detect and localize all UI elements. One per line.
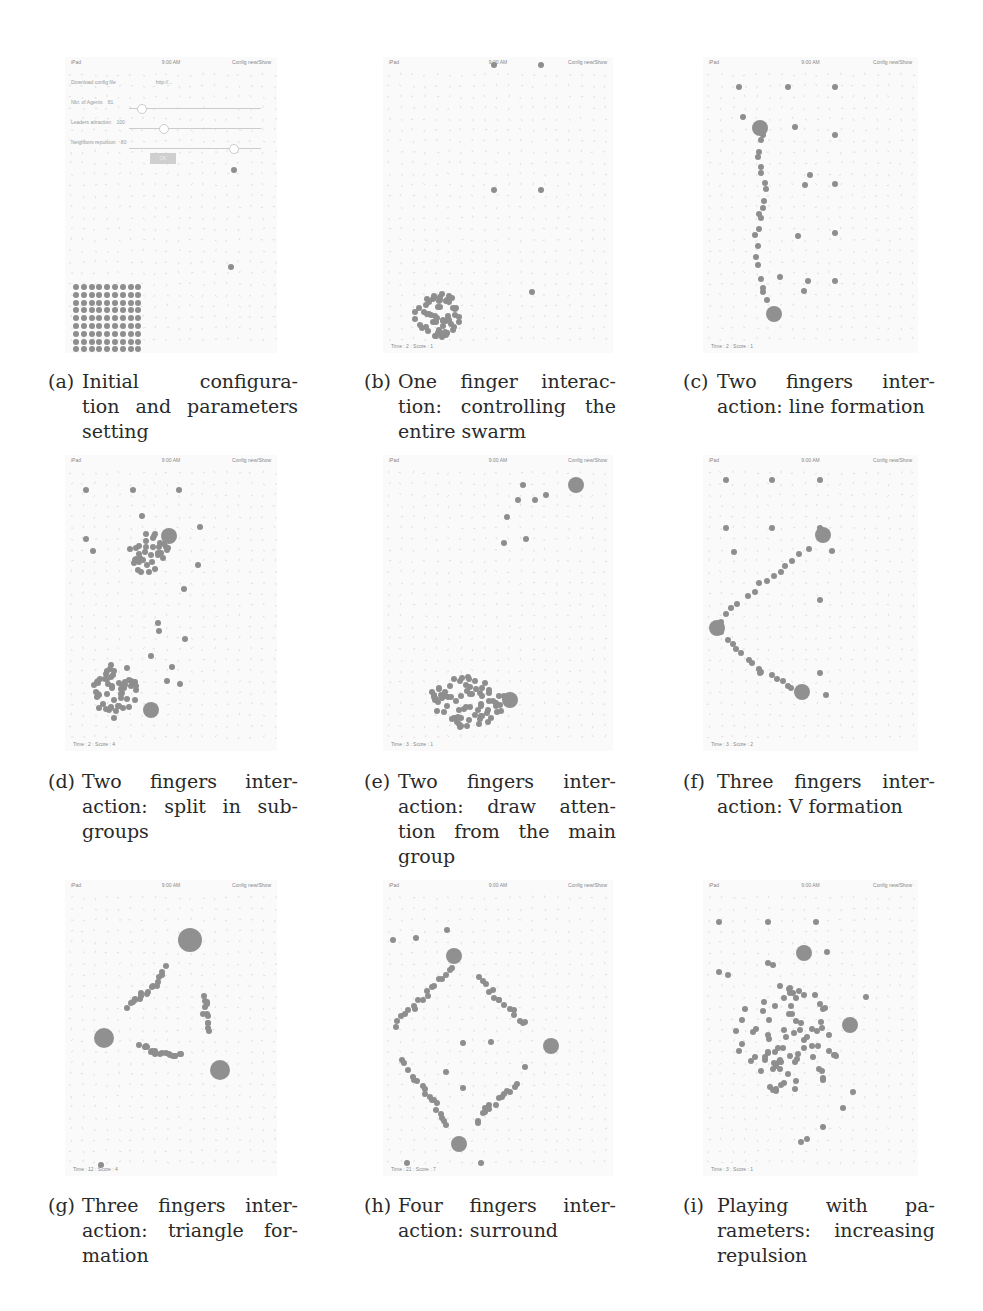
swarm-agent — [801, 992, 807, 998]
settings-slider[interactable] — [129, 108, 261, 109]
caption-e: (e)Two fingers inter-action: draw atten-… — [364, 769, 616, 869]
swarm-agent — [466, 717, 472, 723]
swarm-agent — [773, 1088, 779, 1094]
settings-value[interactable]: 80 — [119, 139, 126, 145]
config-button[interactable]: Config new/Show — [873, 457, 912, 463]
swarm-agent — [805, 278, 811, 284]
swarm-agent — [488, 715, 494, 721]
swarm-agent — [112, 300, 118, 306]
swarm-agent — [120, 315, 126, 321]
finger-attractor — [451, 1136, 467, 1152]
caption-f: (f)Three fingers inter-action: V formati… — [683, 769, 935, 819]
swarm-agent — [104, 331, 110, 337]
swarm-agent — [755, 243, 761, 249]
config-button[interactable]: Config new/Show — [568, 457, 607, 463]
swarm-agent — [111, 668, 117, 674]
time-score-label: Time : 2 : Score : 1 — [391, 343, 433, 349]
config-button[interactable]: Config new/Show — [568, 59, 607, 65]
swarm-agent — [73, 300, 79, 306]
settings-slider[interactable] — [129, 148, 261, 149]
swarm-agent — [81, 331, 87, 337]
swarm-agent — [493, 1102, 499, 1108]
finger-attractor — [161, 528, 177, 544]
swarm-agent — [520, 482, 526, 488]
swarm-agent — [791, 1030, 797, 1036]
caption-line: setting — [48, 419, 298, 444]
swarm-agent — [436, 686, 442, 692]
swarm-agent — [447, 683, 453, 689]
slider-knob[interactable] — [229, 144, 239, 154]
swarm-agent — [802, 182, 808, 188]
swarm-agent — [81, 300, 87, 306]
caption-d: (d)Two fingers inter-action: split in su… — [48, 769, 298, 844]
swarm-agent — [450, 305, 456, 311]
finger-attractor — [815, 527, 831, 543]
caption-line: Four fingers inter- — [398, 1193, 616, 1218]
caption-line: action: split in sub- — [48, 794, 298, 819]
config-url-field[interactable]: http://... — [156, 79, 173, 85]
settings-slider[interactable] — [129, 128, 261, 129]
status-bar: iPad9:00 AMConfig new/Show — [703, 457, 918, 467]
finger-attractor — [842, 1017, 858, 1033]
config-button[interactable]: Config new/Show — [232, 882, 271, 888]
caption-line: tion and parameters — [48, 394, 298, 419]
swarm-agent — [817, 597, 823, 603]
swarm-agent — [104, 292, 110, 298]
swarm-agent — [736, 84, 742, 90]
swarm-agent — [504, 514, 510, 520]
config-button[interactable]: Config new/Show — [232, 59, 271, 65]
swarm-agent — [128, 315, 134, 321]
swarm-agent — [393, 1024, 399, 1030]
config-button[interactable]: Config new/Show — [568, 882, 607, 888]
swarm-agent — [491, 187, 497, 193]
swarm-agent — [529, 289, 535, 295]
config-button[interactable]: Config new/Show — [873, 882, 912, 888]
swarm-agent — [437, 297, 443, 303]
swarm-agent — [740, 114, 746, 120]
swarm-agent — [478, 1160, 484, 1166]
swarm-agent — [128, 300, 134, 306]
swarm-agent — [716, 919, 722, 925]
caption-label: (e) — [364, 769, 398, 794]
swarm-agent — [758, 170, 764, 176]
swarm-agent — [120, 284, 126, 290]
vector-field — [383, 880, 613, 1176]
swarm-agent — [785, 84, 791, 90]
settings-value[interactable]: 81 — [106, 99, 113, 105]
swarm-agent — [522, 1064, 528, 1070]
swarm-agent — [796, 551, 802, 557]
finger-attractor — [794, 684, 810, 700]
caption-line: tion from the main — [364, 819, 616, 844]
swarm-agent — [761, 198, 767, 204]
slider-knob[interactable] — [159, 124, 169, 134]
slider-knob[interactable] — [137, 104, 147, 114]
config-button[interactable]: Config new/Show — [873, 59, 912, 65]
swarm-agent — [753, 1026, 759, 1032]
swarm-agent — [795, 233, 801, 239]
swarm-agent — [788, 685, 794, 691]
vector-field — [65, 880, 277, 1176]
swarm-agent — [81, 323, 87, 329]
swarm-agent — [806, 546, 812, 552]
ok-button[interactable]: OK — [150, 153, 176, 164]
swarm-agent — [89, 331, 95, 337]
swarm-agent — [120, 323, 126, 329]
status-bar: iPad9:00 AMConfig new/Show — [703, 59, 918, 69]
swarm-agent — [832, 230, 838, 236]
swarm-agent — [731, 549, 737, 555]
swarm-agent — [538, 187, 544, 193]
swarm-agent — [148, 653, 154, 659]
swarm-agent — [466, 676, 472, 682]
caption-line: rameters: increasing — [683, 1218, 935, 1243]
swarm-agent — [112, 323, 118, 329]
swarm-agent — [146, 569, 152, 575]
swarm-agent — [89, 323, 95, 329]
swarm-agent — [120, 292, 126, 298]
swarm-agent — [104, 339, 110, 345]
time-score-label: Time : 3 : Score : 2 — [711, 741, 753, 747]
settings-value[interactable]: 100 — [115, 119, 125, 125]
config-button[interactable]: Config new/Show — [232, 457, 271, 463]
swarm-agent — [733, 1028, 739, 1034]
status-bar: iPad9:00 AMConfig new/Show — [383, 59, 613, 69]
swarm-agent — [390, 937, 396, 943]
